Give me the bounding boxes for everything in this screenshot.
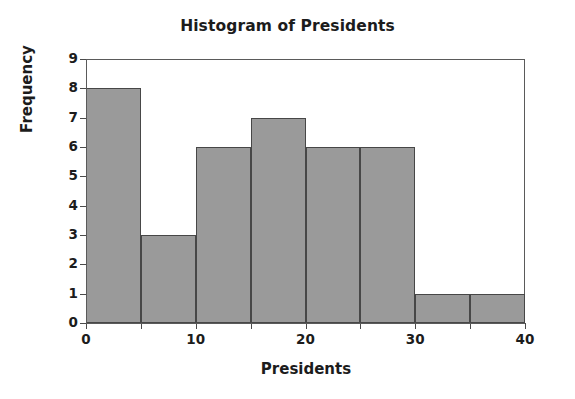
y-axis-title: Frequency: [18, 14, 40, 164]
y-axis-tick-label: 2: [54, 257, 78, 271]
y-axis-tick-label: 9: [54, 52, 78, 66]
y-axis-tick-label: 5: [54, 169, 78, 183]
histogram-chart: Histogram of Presidents Frequency 012345…: [0, 0, 575, 399]
plot-area: [86, 59, 525, 323]
chart-title: Histogram of Presidents: [0, 17, 575, 35]
y-axis-tick-label: 7: [54, 111, 78, 125]
y-axis-tick-label: 3: [54, 228, 78, 242]
y-axis-tick-label: 4: [54, 199, 78, 213]
x-axis-tick-label: 40: [505, 333, 545, 347]
x-axis-tick: [525, 323, 526, 329]
y-axis-tick-label: 8: [54, 81, 78, 95]
x-axis-tick-label: 20: [286, 333, 326, 347]
x-axis-line: [86, 323, 525, 324]
x-axis-tick-label: 10: [176, 333, 216, 347]
x-axis-title: Presidents: [86, 360, 526, 378]
x-axis-tick-label: 0: [66, 333, 106, 347]
y-axis-line: [86, 59, 87, 323]
y-axis-tick-label: 6: [54, 140, 78, 154]
y-axis-spur: [86, 323, 87, 324]
x-axis-tick-label: 30: [395, 333, 435, 347]
y-axis-tick-label: 0: [54, 316, 78, 330]
y-axis-tick-label: 1: [54, 287, 78, 301]
